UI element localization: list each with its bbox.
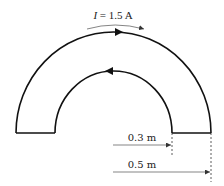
loop-outline bbox=[16, 32, 211, 133]
inner-radius-label: 0.3 m bbox=[128, 132, 157, 143]
current-label: I = 1.5 A bbox=[92, 9, 132, 21]
current-arrow-icon bbox=[87, 25, 144, 29]
inner-arc bbox=[55, 71, 172, 133]
current-loop-diagram: I = 1.5 A 0.3 m 0.5 m bbox=[0, 0, 224, 186]
outer-arc bbox=[16, 32, 211, 133]
outer-radius-label: 0.5 m bbox=[128, 159, 157, 170]
